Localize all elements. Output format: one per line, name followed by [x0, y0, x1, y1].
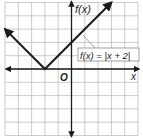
x-axis-label: x	[130, 71, 137, 82]
y-axis-label: f(x)	[75, 3, 91, 15]
axes	[6, 2, 139, 137]
origin-label: O	[60, 72, 68, 83]
function-label: f(x) = |x + 2|	[80, 50, 130, 61]
function-graph: f(x) x O f(x) = |x + 2|	[0, 0, 143, 139]
function-label-callout: f(x) = |x + 2|	[78, 35, 139, 61]
